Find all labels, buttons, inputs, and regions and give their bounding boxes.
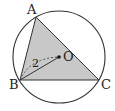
center-point-o (57, 55, 61, 59)
label-o: O (63, 49, 74, 64)
geometry-diagram: A B C O 2 (0, 0, 115, 111)
triangle-abc (20, 17, 99, 80)
label-radius: 2 (32, 57, 39, 70)
label-b: B (9, 77, 19, 92)
label-c: C (101, 77, 111, 92)
label-a: A (26, 2, 37, 17)
